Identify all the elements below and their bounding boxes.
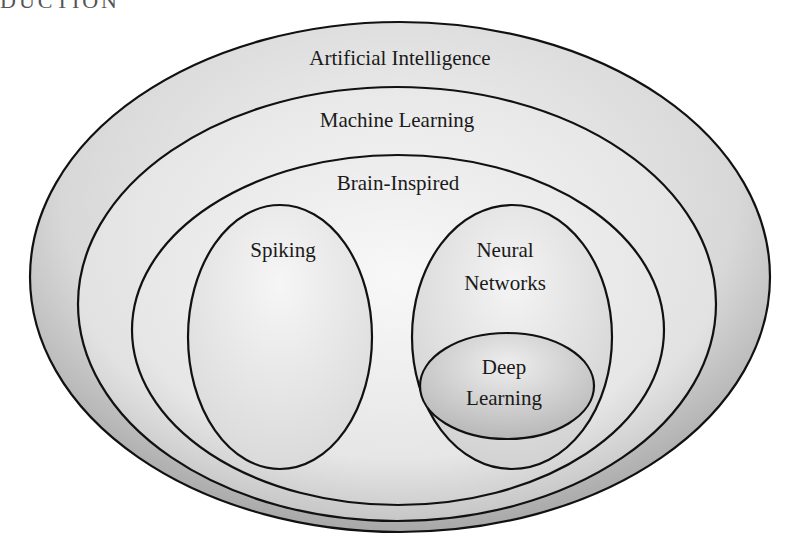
set-deep-learning: Deep Learning — [420, 333, 594, 439]
label-deep-learning-line1: Deep — [482, 355, 526, 379]
label-artificial-intelligence: Artificial Intelligence — [309, 46, 490, 70]
nested-venn-diagram: Artificial Intelligence Machine Learning… — [0, 0, 796, 558]
label-deep-learning-line2: Learning — [466, 386, 542, 410]
label-machine-learning: Machine Learning — [320, 108, 475, 132]
label-brain-inspired: Brain-Inspired — [337, 171, 460, 195]
label-spiking: Spiking — [250, 238, 316, 262]
label-neural-networks-line1: Neural — [476, 238, 533, 262]
label-neural-networks-line2: Networks — [464, 271, 546, 295]
set-spiking: Spiking — [188, 205, 372, 469]
